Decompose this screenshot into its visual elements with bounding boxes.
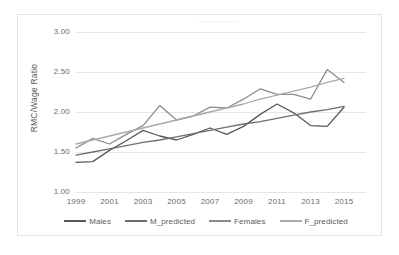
series-line-m_predicted (76, 106, 344, 155)
chart-legend: MalesM_predictedFemalesF_predicted (46, 213, 366, 229)
plot-area: RMC/Wage Ratio 1.001.502.002.503.00 1999… (18, 15, 383, 237)
legend-swatch-icon (209, 220, 231, 222)
legend-label: F_predicted (305, 217, 348, 226)
legend-label: Females (234, 217, 265, 226)
legend-item-females[interactable]: Females (209, 217, 265, 226)
legend-swatch-icon (64, 220, 86, 222)
series-line-f_predicted (76, 78, 344, 144)
legend-item-males[interactable]: Males (64, 217, 111, 226)
series-lines (18, 15, 383, 237)
legend-swatch-icon (280, 220, 302, 222)
series-line-females (76, 70, 344, 148)
chart-container: RMC/Wage Ratio 1.001.502.002.503.00 1999… (17, 14, 382, 236)
legend-label: Males (89, 217, 111, 226)
legend-item-f_predicted[interactable]: F_predicted (280, 217, 348, 226)
legend-item-m_predicted[interactable]: M_predicted (125, 217, 195, 226)
legend-swatch-icon (125, 220, 147, 222)
legend-label: M_predicted (150, 217, 195, 226)
